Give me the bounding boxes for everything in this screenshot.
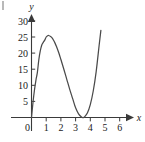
y-tick-label-5: 5 — [23, 96, 28, 107]
y-axis-label: y — [28, 1, 34, 12]
x-tick-label-1: 1 — [44, 122, 49, 133]
y-tick-label-20: 20 — [18, 48, 28, 59]
plot-area: 5 10 15 20 25 30 0 1 2 3 4 5 6 x y — [0, 0, 145, 142]
x-tick-label-5: 5 — [103, 122, 108, 133]
x-axis-label: x — [136, 112, 142, 123]
x-axis-tick-labels: 1 2 3 4 5 6 — [44, 122, 123, 133]
y-tick-label-15: 15 — [18, 64, 28, 75]
x-tick-label-2: 2 — [58, 122, 63, 133]
cubic-curve — [32, 30, 101, 117]
cubic-function-figure: 5 10 15 20 25 30 0 1 2 3 4 5 6 x y — [0, 0, 145, 142]
x-axis-arrowhead — [126, 114, 134, 121]
x-axis — [11, 114, 134, 121]
y-tick-label-30: 30 — [18, 16, 28, 27]
origin-label: 0 — [25, 122, 30, 133]
y-tick-label-10: 10 — [18, 80, 28, 91]
x-tick-label-6: 6 — [117, 122, 122, 133]
y-tick-label-25: 25 — [18, 32, 28, 43]
y-axis-tick-labels: 5 10 15 20 25 30 — [18, 16, 28, 108]
x-tick-label-3: 3 — [73, 122, 78, 133]
x-tick-label-4: 4 — [88, 122, 93, 133]
